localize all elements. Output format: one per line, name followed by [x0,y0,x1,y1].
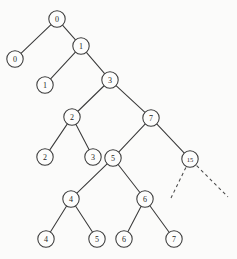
tree-edge [128,207,141,232]
tree-edge [51,206,67,231]
tree-node-label: 2 [70,113,74,122]
tree-node-label: 5 [111,154,115,163]
tree-edge [78,86,104,111]
tree-edge [51,52,75,78]
tree-node-label: 4 [44,235,48,244]
tree-edge [87,53,105,74]
tree-edge [157,124,184,153]
tree-node-label: 3 [91,153,95,162]
tree-node[interactable]: 15 [182,151,198,167]
tree-node[interactable]: 6 [137,191,153,207]
tree-node-label: 1 [43,81,47,90]
tree-node[interactable]: 4 [38,231,54,247]
tree-node[interactable]: 6 [116,231,132,247]
tree-edge [118,165,139,192]
tree-node-label: 1 [79,42,83,51]
tree-node[interactable]: 2 [64,109,80,125]
tree-node[interactable]: 7 [143,110,159,126]
dashed-edges-layer [171,166,228,198]
nodes-layer: 001132723515464567 [7,11,198,247]
tree-edge [21,25,51,53]
tree-node-label: 6 [143,195,147,204]
tree-edge [50,124,67,150]
tree-node-label: 7 [172,235,176,244]
tree-node[interactable]: 1 [73,38,89,54]
tree-node-label: 15 [187,156,194,163]
tree-node[interactable]: 3 [102,72,118,88]
tree-node[interactable]: 3 [85,149,101,165]
tree-node-label: 6 [122,235,126,244]
tree-edge [76,206,93,232]
tree-node[interactable]: 0 [49,11,65,27]
tree-edge-dashed [171,167,186,198]
tree-node-label: 5 [95,235,99,244]
tree-node[interactable]: 1 [37,77,53,93]
tree-edge [76,125,89,150]
tree-node[interactable]: 0 [7,51,23,67]
tree-node[interactable]: 5 [89,231,105,247]
tree-edge [116,86,144,112]
tree-node-label: 4 [69,195,73,204]
tree-diagram-canvas: 001132723515464567 [0,0,237,259]
tree-edge [77,164,107,193]
edges-layer [21,25,184,232]
tree-edge [119,124,145,152]
tree-node[interactable]: 5 [105,150,121,166]
tree-edge-dashed [197,166,228,197]
tree-node-label: 0 [55,15,59,24]
tree-edge [150,206,169,232]
tree-node-label: 0 [13,55,17,64]
tree-node-label: 7 [149,114,153,123]
tree-node[interactable]: 4 [63,191,79,207]
tree-node-label: 2 [43,153,47,162]
tree-diagram-figure: 001132723515464567 [0,0,237,259]
tree-node[interactable]: 7 [166,231,182,247]
tree-edge [63,25,76,39]
tree-node[interactable]: 2 [37,149,53,165]
tree-node-label: 3 [108,76,112,85]
